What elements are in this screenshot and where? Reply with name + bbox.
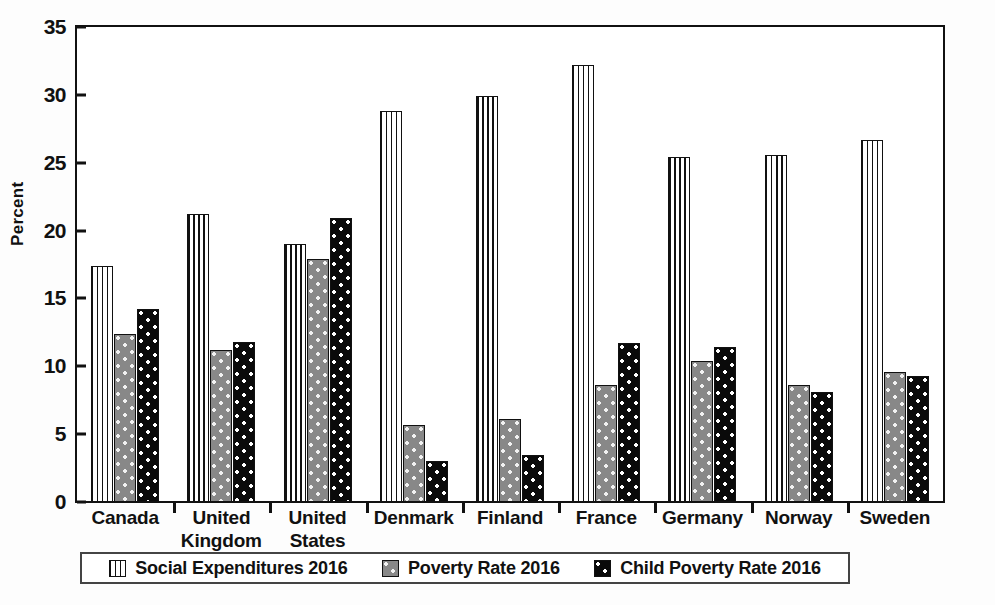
bar-group [269, 27, 365, 502]
legend-label: Social Expenditures 2016 [135, 558, 347, 579]
bar [522, 455, 544, 503]
x-axis-category-label: UnitedKingdom [173, 506, 269, 552]
bar-group-bars [462, 27, 558, 502]
bar-group-bars [173, 27, 269, 502]
y-axis-tick-label: 20 [44, 219, 77, 243]
bar [137, 309, 159, 502]
bar [691, 361, 713, 502]
legend-swatch-icon [109, 560, 126, 577]
x-axis-category-line: United [269, 506, 365, 529]
x-axis-category-label: UnitedStates [269, 506, 365, 552]
bar-group [462, 27, 558, 502]
x-axis-category-line: France [558, 506, 654, 529]
x-axis-category-line: Canada [77, 506, 173, 529]
bar-group [751, 27, 847, 502]
y-axis-label: Percent [8, 182, 28, 246]
x-axis-category-line: Germany [654, 506, 750, 529]
bar [210, 350, 232, 502]
bar [284, 244, 306, 502]
y-axis-tick-label: 35 [44, 15, 77, 39]
chart-legend: Social Expenditures 2016Poverty Rate 201… [80, 552, 850, 584]
legend-swatch-icon [594, 560, 611, 577]
bar-group [173, 27, 269, 502]
bar-group-bars [269, 27, 365, 502]
bar [380, 111, 402, 502]
legend-swatch-icon [382, 560, 399, 577]
x-axis-category-line: Finland [462, 506, 558, 529]
x-axis-category-line: States [269, 529, 365, 552]
bar-group-bars [654, 27, 750, 502]
x-axis-category-label: France [558, 506, 654, 529]
x-axis-category-line: Sweden [847, 506, 943, 529]
x-axis-category-label: Sweden [847, 506, 943, 529]
y-axis-tick-label: 15 [44, 286, 77, 310]
y-axis-tick-label: 5 [55, 422, 77, 446]
bar-group [654, 27, 750, 502]
bar [91, 266, 113, 502]
bar [476, 96, 498, 502]
bar [499, 419, 521, 502]
bar-group [558, 27, 654, 502]
bar [714, 347, 736, 502]
x-axis-category-line: Norway [751, 506, 847, 529]
bar-group [847, 27, 943, 502]
y-axis-tick-label: 30 [44, 83, 77, 107]
bar-group-bars [847, 27, 943, 502]
bar [788, 385, 810, 502]
x-axis-category-line: Denmark [366, 506, 462, 529]
x-axis-category-label: Denmark [366, 506, 462, 529]
bar [307, 259, 329, 502]
legend-item[interactable]: Child Poverty Rate 2016 [594, 558, 820, 579]
bar [884, 372, 906, 502]
bar [114, 334, 136, 502]
plot-area: 05101520253035 [77, 27, 943, 502]
bar [403, 425, 425, 502]
bar-group-bars [751, 27, 847, 502]
x-axis-category-label: Norway [751, 506, 847, 529]
bar [907, 376, 929, 502]
bar [572, 65, 594, 502]
x-axis-category-label: Germany [654, 506, 750, 529]
x-axis-category-label: Canada [77, 506, 173, 529]
bar-group-bars [366, 27, 462, 502]
bar [187, 214, 209, 502]
y-axis-tick-label: 10 [44, 354, 77, 378]
legend-label: Child Poverty Rate 2016 [620, 558, 820, 579]
x-axis-category-line: United [173, 506, 269, 529]
x-axis-category-label: Finland [462, 506, 558, 529]
bar [595, 385, 617, 502]
bar-group [77, 27, 173, 502]
y-axis-tick-label: 25 [44, 151, 77, 175]
bar [618, 343, 640, 502]
bar [330, 218, 352, 502]
bar-group [366, 27, 462, 502]
chart-figure: Percent 05101520253035 CanadaUnitedKingd… [0, 0, 995, 605]
legend-item[interactable]: Poverty Rate 2016 [382, 558, 560, 579]
legend-label: Poverty Rate 2016 [408, 558, 560, 579]
bar [426, 461, 448, 502]
bar-group-bars [558, 27, 654, 502]
bar-group-bars [77, 27, 173, 502]
legend-item[interactable]: Social Expenditures 2016 [109, 558, 347, 579]
x-axis-category-line: Kingdom [173, 529, 269, 552]
bar [765, 155, 787, 502]
y-axis-tick-label: 0 [55, 490, 77, 514]
bar [668, 157, 690, 502]
bar [811, 392, 833, 502]
bar [233, 342, 255, 502]
bar [861, 140, 883, 502]
